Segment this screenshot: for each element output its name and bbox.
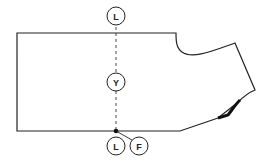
marker-bottom-l: L — [107, 137, 125, 155]
marker-label: F — [136, 142, 142, 152]
marker-bottom-f: F — [130, 137, 148, 155]
marker-top-l: L — [107, 7, 125, 25]
marker-label: L — [113, 142, 119, 152]
pattern-diagram: L Y L F — [0, 0, 265, 166]
marker-label: L — [113, 12, 119, 22]
marker-mid-y: Y — [107, 73, 125, 91]
marker-label: Y — [113, 78, 119, 88]
